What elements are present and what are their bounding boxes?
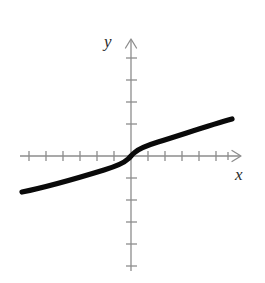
coordinate-plane [0, 0, 265, 283]
y-axis-label: y [104, 33, 112, 50]
graph-figure: y x [0, 0, 265, 283]
x-axis-label: x [235, 166, 243, 183]
